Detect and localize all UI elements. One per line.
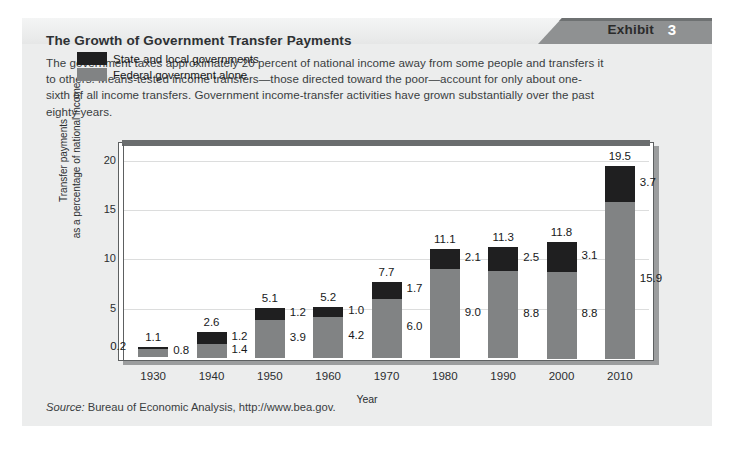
bar-federal-label-1960: 4.2 — [348, 329, 364, 341]
exhibit-panel: Exhibit 3 The Growth of Government Trans… — [22, 18, 712, 426]
bar-federal-label-2010: 15.9 — [640, 272, 662, 284]
bar-federal-label-2000: 8.8 — [582, 307, 598, 319]
bar-segment-federal-1930 — [138, 349, 168, 357]
x-tick-1950: 1950 — [240, 370, 300, 382]
bar-group-1980 — [430, 249, 460, 358]
bar-group-1940 — [197, 332, 227, 358]
gridline-15 — [124, 210, 649, 211]
bar-federal-label-1930: 0.8 — [173, 344, 189, 356]
bar-total-label-1970: 7.7 — [357, 266, 417, 278]
x-tick-1980: 1980 — [415, 370, 475, 382]
bar-state-local-label-1970: 1.7 — [407, 282, 423, 294]
bar-total-label-1990: 11.3 — [473, 231, 533, 243]
bar-segment-federal-1970 — [372, 299, 402, 358]
legend-label-federal: Federal government alone — [113, 69, 247, 81]
bar-segment-state-local-1940 — [197, 332, 227, 344]
bar-total-label-2000: 11.8 — [532, 226, 592, 238]
bar-group-1970 — [372, 282, 402, 358]
y-axis-label-line1: Transfer payments — [58, 61, 71, 261]
bar-segment-state-local-1970 — [372, 282, 402, 299]
bar-federal-label-1980: 9.0 — [465, 306, 481, 318]
bar-federal-label-1970: 6.0 — [407, 320, 423, 332]
bar-group-1960 — [313, 307, 343, 358]
bar-segment-state-local-1960 — [313, 307, 343, 317]
bar-total-label-1950: 5.1 — [240, 292, 300, 304]
bar-group-1990 — [488, 247, 518, 358]
bar-federal-label-1990: 8.8 — [523, 307, 539, 319]
y-tick-15: 15 — [88, 203, 116, 215]
legend-label-state-local: State and local governments — [113, 53, 259, 65]
bar-total-label-1960: 5.2 — [298, 291, 358, 303]
source-line: Source: Bureau of Economic Analysis, htt… — [46, 401, 336, 413]
exhibit-badge-number: 3 — [668, 21, 676, 38]
bar-state-local-label-1960: 1.0 — [348, 304, 364, 316]
y-tick-20: 20 — [88, 154, 116, 166]
y-axis-label-line2: as a percentage of national income — [70, 61, 83, 261]
bar-total-label-2010: 19.5 — [590, 150, 650, 162]
bar-segment-federal-2000 — [547, 272, 577, 359]
bar-total-label-1980: 11.1 — [415, 233, 475, 245]
exhibit-badge-label: Exhibit — [608, 22, 654, 37]
source-text: Bureau of Economic Analysis, http://www.… — [88, 401, 336, 413]
bar-state-local-label-1930: 0.2 — [110, 340, 126, 352]
bar-segment-federal-1990 — [488, 271, 518, 358]
bar-state-local-label-1990: 2.5 — [523, 251, 539, 263]
bar-state-local-label-2010: 3.7 — [640, 176, 656, 188]
legend-swatch-state-local — [77, 52, 107, 65]
bar-segment-state-local-1990 — [488, 247, 518, 272]
bar-group-1930 — [138, 347, 168, 358]
x-tick-2010: 2010 — [590, 370, 650, 382]
bar-segment-state-local-2010 — [605, 166, 635, 202]
bar-group-2010 — [605, 166, 635, 358]
y-axis-label-text: Transfer payments as a percentage of nat… — [58, 61, 83, 261]
gridline-20 — [124, 161, 649, 162]
x-tick-1960: 1960 — [298, 370, 358, 382]
bar-segment-state-local-2000 — [547, 242, 577, 273]
chart-legend: State and local governments Federal gove… — [77, 52, 259, 84]
legend-item-state-local: State and local governments — [77, 52, 259, 65]
y-tick-10: 10 — [88, 252, 116, 264]
x-tick-1930: 1930 — [123, 370, 183, 382]
x-tick-1970: 1970 — [357, 370, 417, 382]
legend-swatch-federal — [77, 68, 107, 81]
x-tick-1940: 1940 — [182, 370, 242, 382]
bar-group-1950 — [255, 308, 285, 358]
bar-segment-state-local-1980 — [430, 249, 460, 270]
bar-segment-state-local-1950 — [255, 308, 285, 320]
bar-segment-federal-2010 — [605, 202, 635, 359]
y-axis-line — [123, 144, 124, 360]
bar-federal-label-1950: 3.9 — [290, 331, 306, 343]
y-tick-5: 5 — [88, 302, 116, 314]
bar-state-local-label-1950: 1.2 — [290, 306, 306, 318]
bar-segment-federal-1980 — [430, 269, 460, 358]
bar-state-local-label-1980: 2.1 — [465, 251, 481, 263]
bar-segment-federal-1950 — [255, 320, 285, 358]
source-prefix: Source: — [46, 401, 85, 413]
x-tick-1990: 1990 — [473, 370, 533, 382]
bar-federal-label-1940: 1.4 — [232, 343, 248, 355]
bar-group-2000 — [547, 242, 577, 358]
bar-state-local-label-1940: 1.2 — [232, 330, 248, 342]
banner-dark-top-edge — [538, 18, 712, 21]
x-tick-2000: 2000 — [532, 370, 592, 382]
bar-segment-federal-1940 — [197, 344, 227, 358]
bar-state-local-label-2000: 3.1 — [582, 249, 598, 261]
bar-segment-federal-1960 — [313, 317, 343, 358]
bar-total-label-1940: 2.6 — [182, 316, 242, 328]
bar-total-label-1930: 1.1 — [123, 331, 183, 343]
legend-item-federal: Federal government alone — [77, 68, 259, 81]
